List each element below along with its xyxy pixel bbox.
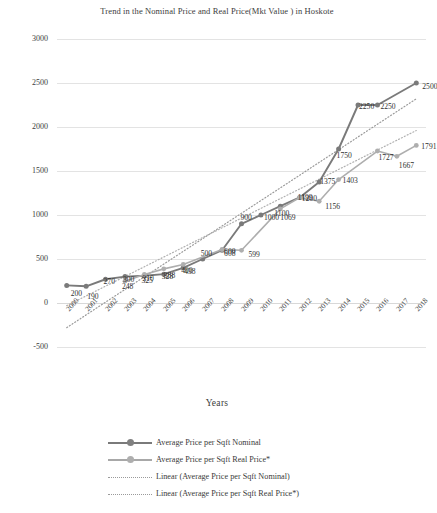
data-label: 2250 <box>359 103 374 111</box>
legend-swatch-icon <box>108 489 152 499</box>
y-axis-tick: 2500 <box>2 78 48 87</box>
data-label: 1199 <box>298 194 313 202</box>
data-label: 270 <box>104 278 115 286</box>
y-axis-tick: 0 <box>2 298 48 307</box>
legend-label: Average Price per Sqft Nominal <box>152 438 261 447</box>
y-axis-tick: 2000 <box>2 122 48 131</box>
data-point <box>394 154 399 159</box>
data-point <box>336 177 341 182</box>
data-point <box>84 284 89 289</box>
series-lines <box>57 39 426 347</box>
data-label: 190 <box>87 293 98 301</box>
legend-swatch-icon <box>108 438 152 448</box>
data-label: 1375 <box>320 178 335 186</box>
data-label: 200 <box>71 290 82 298</box>
data-point <box>317 199 322 204</box>
data-label: 900 <box>241 214 252 222</box>
legend-swatch-icon <box>108 472 152 482</box>
data-point <box>414 81 419 86</box>
data-label: 2250 <box>380 103 395 111</box>
y-axis-tick: 500 <box>2 254 48 263</box>
legend-marker-icon <box>127 456 134 463</box>
y-axis-tick: 3000 <box>2 34 48 43</box>
legend-swatch-icon <box>108 455 152 465</box>
data-label: 1750 <box>337 152 352 160</box>
data-label: 2500 <box>422 83 437 91</box>
data-label: 1069 <box>280 214 295 222</box>
data-label: 608 <box>224 250 235 258</box>
chart-title: Trend in the Nominal Price and Real Pric… <box>0 6 434 16</box>
legend-item[interactable]: Linear (Average Price per Sqft Real Pric… <box>108 485 408 502</box>
legend-marker-icon <box>127 439 134 446</box>
legend-item[interactable]: Average Price per Sqft Real Price* <box>108 451 408 468</box>
data-label: 1403 <box>343 177 358 185</box>
data-label: 248 <box>122 283 133 291</box>
data-point <box>64 283 69 288</box>
legend-label: Average Price per Sqft Real Price* <box>152 455 270 464</box>
legend-label: Linear (Average Price per Sqft Nominal) <box>152 472 290 481</box>
y-axis-tick: -500 <box>2 342 48 351</box>
data-point <box>258 213 263 218</box>
legend-item[interactable]: Average Price per Sqft Nominal <box>108 434 408 451</box>
data-point <box>375 103 380 108</box>
data-label: 388 <box>164 272 175 280</box>
data-point <box>239 221 244 226</box>
x-axis-title: Years <box>0 398 434 408</box>
y-axis-tick: 1000 <box>2 210 48 219</box>
legend-item[interactable]: Linear (Average Price per Sqft Nominal) <box>108 468 408 485</box>
data-label: 1727 <box>378 154 393 162</box>
legend-label: Linear (Average Price per Sqft Real Pric… <box>152 489 299 498</box>
data-label: 438 <box>184 268 195 276</box>
gridline <box>57 347 426 348</box>
data-label: 325 <box>141 277 152 285</box>
data-label: 1791 <box>421 143 436 151</box>
data-point <box>239 248 244 253</box>
plot-area: 2000200120022003200420052006200720082009… <box>57 39 426 347</box>
chart-legend: Average Price per Sqft NominalAverage Pr… <box>108 434 408 502</box>
data-label: 500 <box>201 250 212 258</box>
series-line <box>67 83 417 286</box>
data-label: 1156 <box>325 203 340 211</box>
y-axis-tick: 1500 <box>2 166 48 175</box>
data-label: 1667 <box>399 162 414 170</box>
data-point <box>414 143 419 148</box>
data-label: 599 <box>249 251 260 259</box>
